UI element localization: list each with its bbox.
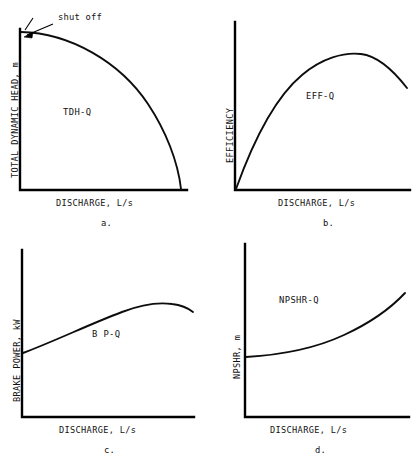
panel-a-tdh-q: TOTAL DYNAMIC HEAD, m TDH-Q shut off DIS…: [0, 0, 210, 235]
panel-d-x-axis-label: DISCHARGE, L/s: [270, 426, 347, 435]
panel-b-y-axis-label: EFFICIENCY: [226, 108, 235, 163]
panel-a-shut-off-annotation: shut off: [58, 13, 102, 22]
panel-d-axes: [245, 244, 409, 417]
panel-a-curve-label: TDH-Q: [63, 108, 91, 117]
panel-d-y-axis-label: NPSHR, m: [233, 335, 242, 379]
panel-d-npshr-q: NPSHR, m NPSHR-Q DISCHARGE, L/s d.: [210, 236, 420, 471]
panel-b-eff-q: EFFICIENCY EFF-Q DISCHARGE, L/s b.: [210, 0, 420, 235]
panel-d-curve-label: NPSHR-Q: [279, 296, 319, 305]
shut-off-leader-tick: [25, 18, 33, 30]
panel-b-x-axis-label: DISCHARGE, L/s: [278, 199, 355, 208]
panel-c-bp-q: BRAKE POWER, kW B P-Q DISCHARGE, L/s c.: [0, 236, 210, 471]
panel-b-caption: b.: [323, 219, 334, 228]
panel-a-x-axis-label: DISCHARGE, L/s: [56, 199, 133, 208]
panel-c-x-axis-label: DISCHARGE, L/s: [59, 426, 136, 435]
panel-a-curve: [21, 32, 181, 189]
panel-b-curve-label: EFF-Q: [306, 92, 334, 101]
panel-a-caption: a.: [101, 219, 112, 228]
panel-c-caption: c.: [104, 446, 115, 455]
panel-d-curve: [246, 293, 405, 357]
panel-c-plot: [0, 236, 210, 471]
panel-c-curve-label: B P-Q: [92, 330, 120, 339]
panel-b-curve: [236, 54, 407, 189]
pump-curves-figure: TOTAL DYNAMIC HEAD, m TDH-Q shut off DIS…: [0, 0, 420, 471]
panel-d-caption: d.: [315, 446, 326, 455]
panel-c-y-axis-label: BRAKE POWER, kW: [13, 319, 22, 402]
panel-b-axes: [235, 22, 410, 190]
panel-a-y-axis-label: TOTAL DYNAMIC HEAD, m: [11, 62, 20, 178]
panel-a-axes: [20, 29, 187, 190]
